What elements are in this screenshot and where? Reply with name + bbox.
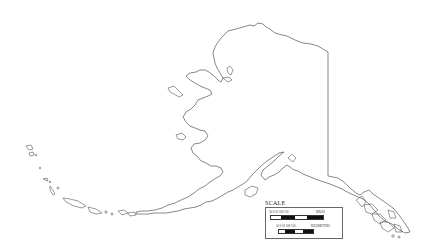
nunivak-island (176, 133, 186, 140)
km-ticks: 50 0 50 100 150 (276, 224, 296, 228)
miles-ticks: 50 0 50 100 150 (269, 210, 289, 214)
kenai-inlet (288, 154, 296, 162)
alaska-map (0, 0, 429, 243)
miles-unit: MILES (316, 210, 325, 214)
scale-box: 50 0 50 100 150 MILES 50 0 50 100 150 KI… (265, 207, 343, 239)
km-unit: KILOMETERS (311, 224, 330, 228)
scale-title: SCALE (265, 200, 286, 206)
kotzebue-sound (227, 66, 233, 75)
miles-scale-bar (270, 215, 324, 220)
coastal-inlet (223, 77, 232, 82)
scale-legend: SCALE 50 0 50 100 150 MILES 50 0 50 100 … (265, 200, 345, 238)
st-lawrence-island (168, 86, 183, 97)
km-scale-bar (278, 229, 314, 234)
alexander-archipelago (356, 196, 402, 238)
aleutian-islands (26, 145, 136, 216)
kodiak-island (245, 186, 258, 197)
